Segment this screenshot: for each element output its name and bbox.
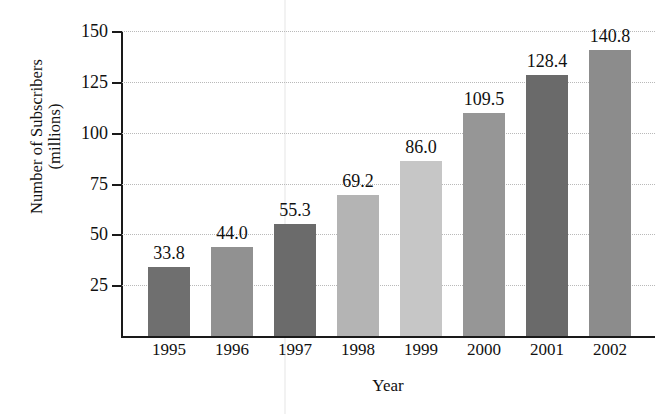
gridline [121, 234, 655, 236]
bar-1998[interactable]: 69.2 [337, 195, 379, 336]
bar-value-label: 109.5 [464, 89, 505, 110]
bar-2000[interactable]: 109.5 [463, 113, 505, 336]
bar-value-label: 69.2 [342, 171, 374, 192]
gridline [121, 133, 655, 135]
bar-2002[interactable]: 140.8 [589, 50, 631, 336]
x-tick-label-2001: 2001 [516, 340, 579, 360]
gridline [121, 184, 655, 186]
gridline [121, 82, 655, 84]
gridline [121, 31, 655, 33]
bar-value-label: 55.3 [279, 200, 311, 221]
x-tick-label-2002: 2002 [579, 340, 642, 360]
bar-value-label: 86.0 [405, 137, 437, 158]
bar-value-label: 44.0 [216, 223, 248, 244]
bar-1996[interactable]: 44.0 [211, 247, 253, 336]
bar-1995[interactable]: 33.8 [148, 267, 190, 336]
y-tick-label: 125 [81, 71, 108, 92]
x-tick-label-1995: 1995 [138, 340, 201, 360]
y-tick-label: 100 [81, 122, 108, 143]
gridline [121, 285, 655, 287]
y-tick-mark [112, 31, 122, 33]
bar-2001[interactable]: 128.4 [526, 75, 568, 336]
x-tick-label-1996: 1996 [201, 340, 264, 360]
x-axis-title: Year [121, 376, 655, 396]
bar-value-label: 140.8 [590, 26, 631, 47]
y-tick-label: 25 [90, 275, 108, 296]
y-tick-mark [112, 133, 122, 135]
bar-1999[interactable]: 86.0 [400, 161, 442, 336]
x-tick-label-1997: 1997 [264, 340, 327, 360]
x-tick-label-1999: 1999 [390, 340, 453, 360]
bar-chart: Number of Subscribers (millions) 2550751… [0, 0, 671, 414]
y-tick-mark [112, 82, 122, 84]
y-axis-title: Number of Subscribers (millions) [28, 26, 65, 246]
bar-value-label: 33.8 [153, 243, 185, 264]
y-tick-mark [112, 184, 122, 186]
x-axis-line [121, 336, 655, 338]
y-tick-mark [112, 234, 122, 236]
y-tick-label: 75 [90, 173, 108, 194]
x-tick-label-2000: 2000 [453, 340, 516, 360]
bar-1997[interactable]: 55.3 [274, 224, 316, 336]
y-tick-mark [112, 285, 122, 287]
y-tick-label: 50 [90, 224, 108, 245]
plot-area: 255075100125150 33.844.055.369.286.0109.… [121, 31, 655, 337]
bar-value-label: 128.4 [527, 51, 568, 72]
y-tick-label: 150 [81, 21, 108, 42]
x-tick-label-1998: 1998 [327, 340, 390, 360]
